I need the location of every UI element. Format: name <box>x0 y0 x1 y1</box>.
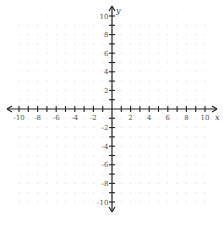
grid-dot <box>177 118 178 119</box>
grid-dot <box>56 90 57 91</box>
grid-dot <box>37 155 38 156</box>
grid-dot <box>19 146 20 147</box>
y-tick-label: 6 <box>104 50 109 58</box>
grid-dot <box>74 71 75 72</box>
grid-dot <box>46 25 47 26</box>
grid-dot <box>139 146 140 147</box>
grid-dot <box>121 81 122 82</box>
grid-dot <box>130 25 131 26</box>
grid-dot <box>19 164 20 165</box>
grid-dot <box>74 34 75 35</box>
grid-dot <box>56 25 57 26</box>
grid-dot <box>93 136 94 137</box>
grid-dot <box>195 127 196 128</box>
grid-dot <box>121 43 122 44</box>
grid-dot <box>93 81 94 82</box>
grid-dot <box>46 183 47 184</box>
grid-dot <box>149 202 150 203</box>
grid-dot <box>84 118 85 119</box>
grid-dot <box>139 53 140 54</box>
grid-dot <box>74 136 75 137</box>
grid-dot <box>186 155 187 156</box>
grid-dot <box>28 25 29 26</box>
grid-dot <box>56 62 57 63</box>
grid-dot <box>65 136 66 137</box>
grid-dot <box>167 183 168 184</box>
grid-dot <box>195 174 196 175</box>
grid-dot <box>28 16 29 17</box>
grid-dot <box>84 71 85 72</box>
grid-dot <box>37 16 38 17</box>
grid-dot <box>56 136 57 137</box>
grid-dot <box>74 174 75 175</box>
grid-dot <box>84 174 85 175</box>
grid-dot <box>74 25 75 26</box>
grid-dot <box>65 99 66 100</box>
grid-dot <box>121 146 122 147</box>
grid-dot <box>37 164 38 165</box>
grid-dot <box>84 53 85 54</box>
grid-dot <box>93 43 94 44</box>
grid-dot <box>158 164 159 165</box>
grid-dot <box>139 62 140 63</box>
x-tick-label: -8 <box>34 114 41 122</box>
grid-dot <box>205 146 206 147</box>
grid-dot <box>74 62 75 63</box>
grid-dot <box>65 53 66 54</box>
grid-dot <box>46 53 47 54</box>
grid-dot <box>130 53 131 54</box>
grid-dot <box>65 43 66 44</box>
grid-dot <box>167 34 168 35</box>
grid-dot <box>205 53 206 54</box>
grid-dot <box>102 43 103 44</box>
x-tick-label: 4 <box>147 114 152 122</box>
grid-dot <box>121 202 122 203</box>
grid-dot <box>121 136 122 137</box>
grid-dot <box>177 90 178 91</box>
grid-dot <box>121 62 122 63</box>
grid-dot <box>121 25 122 26</box>
grid-dot <box>19 99 20 100</box>
grid-dot <box>84 127 85 128</box>
grid-dot <box>158 62 159 63</box>
grid-dot <box>74 146 75 147</box>
grid-dot <box>56 164 57 165</box>
grid-dot <box>139 155 140 156</box>
grid-dot <box>177 34 178 35</box>
grid-dot <box>28 34 29 35</box>
y-tick-label: 2 <box>104 87 108 95</box>
grid-dot <box>84 25 85 26</box>
grid-dot <box>186 90 187 91</box>
grid-dot <box>167 202 168 203</box>
grid-dot <box>74 43 75 44</box>
grid-dot <box>130 164 131 165</box>
grid-dot <box>195 62 196 63</box>
y-tick-label: 10 <box>100 13 109 21</box>
grid-dot <box>93 183 94 184</box>
grid-dot <box>149 136 150 137</box>
grid-dot <box>121 174 122 175</box>
grid-dot <box>84 183 85 184</box>
grid-dot <box>149 34 150 35</box>
grid-dot <box>121 34 122 35</box>
grid-dot <box>74 202 75 203</box>
grid-dot <box>205 127 206 128</box>
grid-dot <box>56 146 57 147</box>
grid-dot <box>74 164 75 165</box>
grid-dot <box>37 90 38 91</box>
grid-dot <box>158 34 159 35</box>
grid-dot <box>158 183 159 184</box>
grid-dot <box>74 192 75 193</box>
grid-dot <box>186 16 187 17</box>
grid-dot <box>167 192 168 193</box>
grid-dot <box>158 146 159 147</box>
grid-dot <box>56 202 57 203</box>
grid-dot <box>93 34 94 35</box>
grid-dot <box>167 71 168 72</box>
grid-dot <box>149 43 150 44</box>
y-tick-label: -2 <box>102 124 109 132</box>
grid-dot <box>121 16 122 17</box>
grid-dot <box>19 25 20 26</box>
grid-dot <box>37 99 38 100</box>
x-tick-label: 8 <box>184 114 188 122</box>
